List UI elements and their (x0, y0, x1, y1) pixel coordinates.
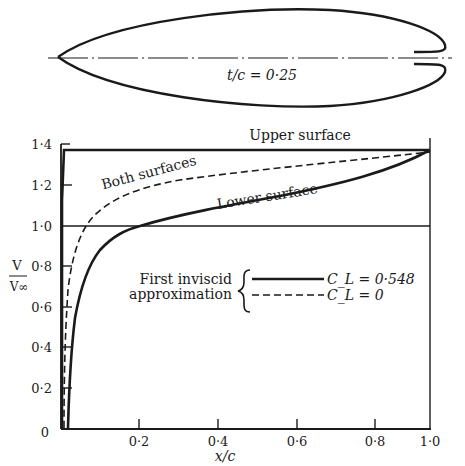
thickness-label: t/c = 0·25 (227, 67, 297, 83)
svg-text:0: 0 (41, 425, 49, 440)
svg-text:0·6: 0·6 (31, 300, 52, 315)
svg-text:0·2: 0·2 (129, 434, 150, 449)
svg-text:0·2: 0·2 (31, 381, 52, 396)
legend-title-line2: approximation (129, 286, 232, 302)
svg-text:1·0: 1·0 (31, 219, 52, 234)
legend-title-line1: First inviscid (140, 271, 233, 287)
svg-text:0·8: 0·8 (365, 434, 386, 449)
svg-text:1·2: 1·2 (31, 178, 52, 193)
velocity-chart: 1·4 1·2 1·0 0·8 0·6 0·4 0·2 0 0·2 0·4 0·… (9, 127, 441, 464)
svg-text:0·8: 0·8 (31, 259, 52, 274)
airfoil-upper-contour (58, 9, 445, 57)
svg-text:0·4: 0·4 (31, 340, 52, 355)
svg-text:0·4: 0·4 (208, 434, 229, 449)
legend-label-cl-0548: C_L = 0·548 (327, 271, 415, 288)
svg-text:V: V (11, 258, 22, 273)
y-axis-label: V V∞ (9, 258, 29, 294)
y-tick-labels: 1·4 1·2 1·0 0·8 0·6 0·4 0·2 0 (31, 137, 52, 440)
svg-text:0·6: 0·6 (287, 434, 308, 449)
svg-text:1·0: 1·0 (420, 434, 441, 449)
annotation-lower-surface: Lower surface (216, 180, 319, 212)
x-tick-labels: 0·2 0·4 0·6 0·8 1·0 (129, 434, 441, 449)
legend-label-cl-0: C_L = 0 (327, 287, 384, 304)
x-axis-label: x/c (215, 448, 236, 464)
figure-canvas: t/c = 0·25 1·4 1·2 1·0 0·8 0 (0, 0, 465, 466)
airfoil-diagram: t/c = 0·25 (48, 9, 452, 106)
x-ticks (139, 419, 375, 429)
svg-text:1·4: 1·4 (31, 137, 52, 152)
legend-brace (238, 270, 250, 312)
svg-text:V∞: V∞ (9, 280, 29, 294)
legend: First inviscid approximation C_L = 0·548… (129, 270, 415, 312)
annotation-upper-surface: Upper surface (249, 127, 351, 143)
